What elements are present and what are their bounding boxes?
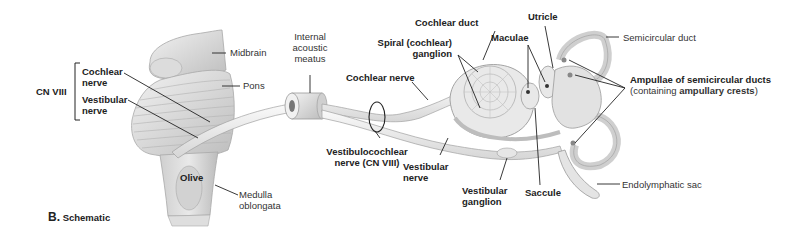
label-vcn-line1: Vestibulocochlear bbox=[302, 146, 432, 157]
label-vn-mid-line1: Vestibular bbox=[403, 161, 448, 172]
vestibulocochlear-diagram: Midbrain Pons CN VIII Cochlear nerve Ves… bbox=[0, 0, 800, 238]
label-vg-line2: ganglion bbox=[462, 196, 507, 207]
cn-viii-bracket bbox=[75, 63, 80, 120]
label-ampullae-line1: Ampullae of semicircular ducts bbox=[630, 74, 771, 85]
label-vestibular-nerve-mid: Vestibular nerve bbox=[403, 161, 448, 183]
label-endolymphatic-sac: Endolymphatic sac bbox=[622, 179, 702, 190]
label-semicircular-duct: Semicircular duct bbox=[623, 32, 696, 43]
label-utricle: Utricle bbox=[528, 11, 558, 22]
label-iam-line2: acoustic bbox=[288, 42, 332, 53]
label-vg-line1: Vestibular bbox=[462, 185, 507, 196]
label-cochlear-nerve-mid: Cochlear nerve bbox=[346, 72, 415, 83]
label-saccule: Saccule bbox=[525, 187, 561, 198]
label-medulla-oblongata: Medulla oblongata bbox=[239, 189, 281, 211]
internal-acoustic-meatus-shape bbox=[285, 93, 327, 119]
label-spiral-ganglion: Spiral (cochlear) ganglion bbox=[372, 37, 452, 59]
label-olive: Olive bbox=[180, 172, 203, 183]
label-ampullary-crests: ampullary crests bbox=[679, 85, 755, 96]
label-vestibular-nerve-left: Vestibular nerve bbox=[82, 94, 127, 116]
label-vestibular-ganglion: Vestibular ganglion bbox=[462, 185, 507, 207]
label-cochlear-duct: Cochlear duct bbox=[415, 17, 478, 28]
vestibule-shape bbox=[521, 66, 557, 109]
label-vn-mid-line2: nerve bbox=[403, 172, 448, 183]
label-medulla-line2: oblongata bbox=[239, 200, 281, 211]
label-cochlear-nerve-left-line1: Cochlear bbox=[82, 66, 123, 77]
medulla-shape bbox=[160, 152, 218, 226]
figure-caption: B. Schematic bbox=[48, 212, 110, 223]
label-maculae: Maculae bbox=[491, 32, 529, 43]
label-medulla-line1: Medulla bbox=[239, 189, 281, 200]
label-pons: Pons bbox=[243, 80, 265, 91]
caption-letter: B. bbox=[48, 210, 60, 224]
label-cochlear-nerve-left: Cochlear nerve bbox=[82, 66, 123, 88]
caption-text: Schematic bbox=[63, 212, 111, 223]
label-vestibular-nerve-left-line1: Vestibular bbox=[82, 94, 127, 105]
label-iam-line1: Internal bbox=[288, 31, 332, 42]
label-ampullae-pre: (containing bbox=[630, 85, 679, 96]
label-cochlear-nerve-left-line2: nerve bbox=[82, 77, 123, 88]
label-midbrain: Midbrain bbox=[230, 47, 266, 58]
label-ampullae: Ampullae of semicircular ducts (containi… bbox=[630, 74, 771, 96]
label-iam-line3: meatus bbox=[288, 53, 332, 64]
label-internal-acoustic-meatus: Internal acoustic meatus bbox=[288, 31, 332, 64]
label-ampullae-post: ) bbox=[755, 85, 758, 96]
label-cn-viii: CN VIII bbox=[36, 86, 67, 97]
label-vestibular-nerve-left-line2: nerve bbox=[82, 105, 127, 116]
label-spiral-ganglion-line1: Spiral (cochlear) bbox=[372, 37, 452, 48]
label-spiral-ganglion-line2: ganglion bbox=[372, 48, 452, 59]
